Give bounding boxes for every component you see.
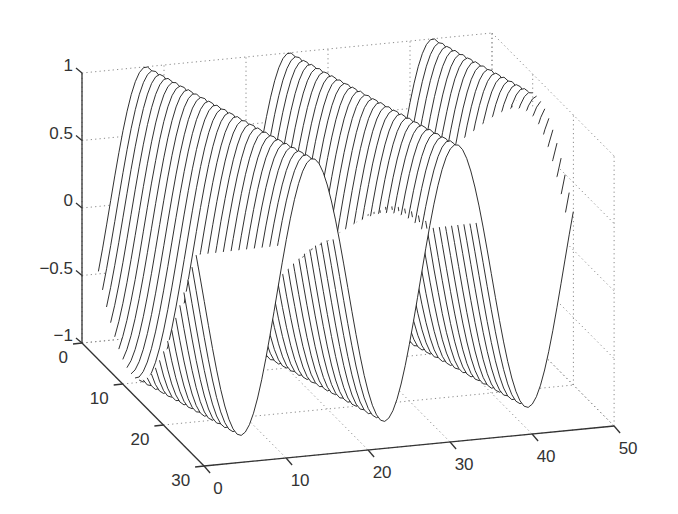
x-tick-label: 10	[291, 471, 310, 490]
x-tick-label: 30	[455, 455, 474, 474]
x-tick-label: 40	[537, 447, 556, 466]
z-tick	[76, 271, 82, 276]
x-tick	[450, 442, 456, 449]
y-tick	[154, 425, 163, 426]
x-tick-label: 0	[213, 479, 222, 498]
y-tick-label: 10	[90, 389, 109, 408]
z-tick-label: 1	[64, 56, 73, 75]
y-tick-label: 0	[59, 348, 68, 367]
mesh-plot: 10.50−0.5−1010203001020304050	[0, 0, 678, 514]
x-tick	[532, 434, 538, 441]
x-tick-label: 50	[619, 439, 638, 458]
z-tick	[76, 338, 82, 343]
z-tick-label: −0.5	[39, 259, 73, 278]
z-tick-label: 0.5	[49, 124, 73, 143]
y-tick	[114, 384, 123, 385]
x-tick-label: 20	[373, 463, 392, 482]
y-tick	[73, 343, 82, 344]
x-tick	[204, 466, 210, 473]
x-tick	[286, 458, 292, 465]
y-tick	[195, 466, 204, 467]
mesh-surface	[98, 39, 573, 435]
x-tick	[614, 426, 620, 433]
z-tick	[76, 136, 82, 141]
z-tick-label: 0	[64, 191, 73, 210]
z-tick	[76, 68, 82, 73]
z-tick	[76, 203, 82, 208]
y-tick-label: 30	[171, 471, 190, 490]
z-tick-label: −1	[54, 326, 73, 345]
y-tick-label: 20	[130, 430, 149, 449]
x-tick	[368, 450, 374, 457]
